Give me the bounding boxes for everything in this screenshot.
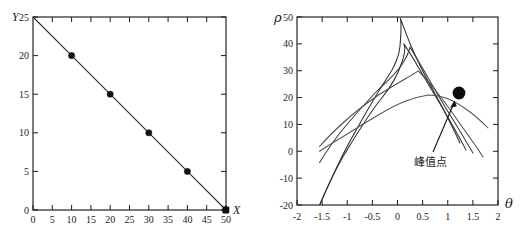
right-xticklabel-6: 1 bbox=[445, 211, 450, 222]
chart-panel-right: 50 40 30 20 10 0 -10 -20 -2 -1.5 -1 -0.5… bbox=[262, 0, 524, 242]
right-xticklabel-1: -1.5 bbox=[314, 211, 330, 222]
right-xticklabel-5: 0.5 bbox=[416, 211, 429, 222]
left-series-line bbox=[33, 17, 226, 210]
left-marker-2 bbox=[146, 130, 152, 136]
right-yticklabel-40: 40 bbox=[283, 38, 293, 49]
left-yticklabel-1: 5 bbox=[24, 166, 29, 177]
left-chart-svg: 0 5 10 15 20 25 0 5 10 15 20 25 30 35 40… bbox=[0, 0, 262, 242]
right-chart-svg: 50 40 30 20 10 0 -10 -20 -2 -1.5 -1 -0.5… bbox=[262, 0, 524, 242]
peak-point-annotation-label: 峰值点 bbox=[414, 156, 447, 169]
right-y-ticklabels: 50 40 30 20 10 0 -10 -20 bbox=[280, 12, 293, 211]
left-y-ticklabels: 0 5 10 15 20 25 bbox=[19, 12, 29, 216]
left-xticklabel-5: 25 bbox=[125, 214, 135, 225]
right-y-axis-label: ρ bbox=[273, 10, 282, 25]
left-xticklabel-9: 45 bbox=[202, 214, 212, 225]
right-curve-1 bbox=[320, 18, 460, 205]
right-xticklabel-3: -0.5 bbox=[364, 211, 380, 222]
left-xticklabel-6: 30 bbox=[144, 214, 154, 225]
right-yticklabel-0: 0 bbox=[288, 146, 293, 157]
left-xticklabel-3: 15 bbox=[86, 214, 96, 225]
right-curve-4 bbox=[320, 71, 483, 157]
left-yticklabel-0: 0 bbox=[24, 205, 29, 216]
left-xticklabel-8: 40 bbox=[182, 214, 192, 225]
left-yticklabel-5: 25 bbox=[19, 12, 29, 23]
left-marker-1 bbox=[107, 91, 113, 97]
left-xticklabel-7: 35 bbox=[163, 214, 173, 225]
right-x-ticklabels: -2 -1.5 -1 -0.5 0 0.5 1 1.5 2 bbox=[293, 211, 501, 222]
right-xticklabel-2: -1 bbox=[343, 211, 351, 222]
left-xticklabel-4: 20 bbox=[105, 214, 115, 225]
left-x-ticklabels: 0 5 10 15 20 25 30 35 40 45 50 bbox=[31, 214, 232, 225]
left-marker-3 bbox=[184, 168, 190, 174]
right-xticklabel-0: -2 bbox=[293, 211, 301, 222]
left-xticklabel-0: 0 bbox=[31, 214, 36, 225]
right-xticklabel-7: 1.5 bbox=[467, 211, 480, 222]
left-xticklabel-1: 5 bbox=[50, 214, 55, 225]
right-series-group bbox=[320, 18, 488, 205]
right-yticklabel-50: 50 bbox=[283, 12, 293, 23]
left-yticklabel-4: 20 bbox=[19, 50, 29, 61]
right-x-axis-label: θ bbox=[505, 196, 513, 211]
right-yticklabel-20: 20 bbox=[283, 92, 293, 103]
right-xticklabel-4: 0 bbox=[395, 211, 400, 222]
left-xticklabel-2: 10 bbox=[67, 214, 77, 225]
right-yticklabel-m10: -10 bbox=[280, 173, 293, 184]
right-yticklabel-m20: -20 bbox=[280, 200, 293, 211]
right-yticklabel-30: 30 bbox=[283, 65, 293, 76]
figure-root: 0 5 10 15 20 25 0 5 10 15 20 25 30 35 40… bbox=[0, 0, 524, 242]
left-yticklabel-2: 10 bbox=[19, 127, 29, 138]
left-marker-0 bbox=[69, 53, 75, 59]
left-marker-4 bbox=[223, 207, 229, 213]
right-xticklabel-8: 2 bbox=[496, 211, 501, 222]
left-yticklabel-3: 15 bbox=[19, 89, 29, 100]
chart-panel-left: 0 5 10 15 20 25 0 5 10 15 20 25 30 35 40… bbox=[0, 0, 262, 242]
peak-point-marker bbox=[453, 87, 466, 100]
left-xticklabel-10: 50 bbox=[221, 214, 231, 225]
left-x-axis-label: X bbox=[232, 203, 241, 217]
right-yticklabel-10: 10 bbox=[283, 119, 293, 130]
